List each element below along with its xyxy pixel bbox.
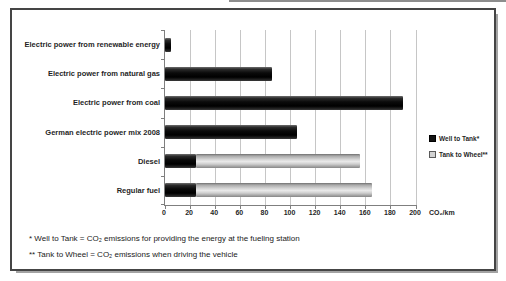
category-label: Electric power from renewable energy: [12, 30, 160, 59]
category-label: Diesel: [12, 147, 160, 176]
bar-row: [165, 125, 416, 139]
bar-row: [165, 154, 416, 168]
x-axis-tick-label: 80: [260, 209, 268, 216]
x-axis-tick-label: 180: [384, 209, 396, 216]
tank-to-wheel-swatch-icon: [429, 151, 436, 158]
plot-area: [164, 30, 416, 206]
gridline: [190, 30, 191, 205]
gridline: [416, 30, 417, 205]
category-axis-tick: [161, 59, 165, 60]
legend: Well to Tank*Tank to Wheel**: [429, 134, 488, 166]
category-label: German electric power mix 2008: [12, 118, 160, 147]
category-axis-tick: [161, 204, 165, 205]
footnote-well-to-tank: * Well to Tank = CO₂ emissions for provi…: [29, 234, 300, 243]
bar-segment-well-to-tank: [165, 38, 171, 52]
bar-segment-well-to-tank: [165, 154, 196, 168]
x-axis-tick-label: 120: [309, 209, 321, 216]
legend-label: Tank to Wheel**: [439, 151, 488, 158]
gridline: [315, 30, 316, 205]
bar-segment-well-to-tank: [165, 125, 297, 139]
category-axis-tick: [161, 147, 165, 148]
bar-segment-tank-to-wheel: [196, 154, 359, 168]
category-axis-tick: [161, 118, 165, 119]
bar-segment-well-to-tank: [165, 183, 196, 197]
bar-segment-well-to-tank: [165, 67, 272, 81]
gridline: [340, 30, 341, 205]
gridline: [215, 30, 216, 205]
chart-frame: Electric power from renewable energyElec…: [10, 8, 496, 271]
well-to-tank-swatch-icon: [429, 135, 436, 142]
bar-row: [165, 67, 416, 81]
bar-segment-tank-to-wheel: [196, 183, 372, 197]
gridline: [365, 30, 366, 205]
legend-item-tank-to-wheel: Tank to Wheel**: [429, 150, 488, 158]
legend-label: Well to Tank*: [439, 135, 479, 142]
x-axis-tick-label: 100: [284, 209, 296, 216]
footnote-tank-to-wheel: ** Tank to Wheel = CO₂ emissions when dr…: [29, 250, 238, 259]
gridline: [265, 30, 266, 205]
x-axis-tick-label: 60: [235, 209, 243, 216]
page: Electric power from renewable energyElec…: [0, 0, 506, 281]
category-axis-tick: [161, 88, 165, 89]
x-axis-tick-label: 0: [162, 209, 166, 216]
category-axis-tick: [161, 30, 165, 31]
bar-row: [165, 96, 416, 110]
category-label: Electric power from coal: [12, 88, 160, 117]
x-axis-tick-label: 20: [185, 209, 193, 216]
gridline: [390, 30, 391, 205]
top-divider-line: [229, 0, 506, 2]
bar-chart: Electric power from renewable energyElec…: [12, 10, 494, 225]
category-axis-labels: Electric power from renewable energyElec…: [12, 10, 160, 225]
gridline: [290, 30, 291, 205]
category-label: Regular fuel: [12, 176, 160, 205]
bar-row: [165, 183, 416, 197]
category-axis-tick: [161, 176, 165, 177]
bar-segment-well-to-tank: [165, 96, 403, 110]
x-axis-unit-label: CO₂/km: [429, 209, 455, 216]
x-axis-tick-label: 160: [359, 209, 371, 216]
legend-item-well-to-tank: Well to Tank*: [429, 134, 488, 142]
x-axis-tick-label: 200: [409, 209, 421, 216]
x-axis-tick-label: 40: [210, 209, 218, 216]
bar-row: [165, 38, 416, 52]
x-axis-tick-label: 140: [334, 209, 346, 216]
category-label: Electric power from natural gas: [12, 59, 160, 88]
gridline: [240, 30, 241, 205]
